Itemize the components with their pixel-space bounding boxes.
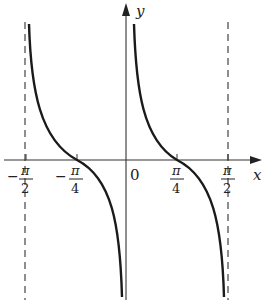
- y-axis-label: y: [135, 2, 145, 20]
- tick-label-neg-pi-2-den: 2: [21, 181, 29, 196]
- tick-label-pi-2-den: 2: [223, 181, 231, 196]
- x-axis-label: x: [253, 166, 262, 184]
- tick-label-neg-pi-4-sign: −: [55, 168, 67, 184]
- origin-label: 0: [130, 166, 140, 184]
- tick-label-neg-pi-4-den: 4: [71, 181, 79, 196]
- tick-label-pi-2-num: π: [222, 163, 232, 178]
- tick-label-neg-pi-4-num: π: [70, 163, 80, 178]
- tick-label-neg-pi-2-sign: −: [7, 168, 19, 184]
- tick-label-pi-4-num: π: [171, 163, 181, 178]
- x-axis-arrow-icon: [250, 156, 262, 164]
- y-axis-arrow-icon: [122, 3, 130, 16]
- tick-label-pi-4-den: 4: [172, 181, 180, 196]
- cotangent-graph: y x 0 − π 2 − π 4 π 4 π 2: [0, 0, 267, 304]
- tick-label-neg-pi-2-num: π: [20, 163, 30, 178]
